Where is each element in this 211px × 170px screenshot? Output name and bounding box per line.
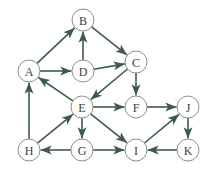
node-k: K [177, 139, 199, 161]
node-label: H [25, 144, 34, 158]
arrow-line [91, 114, 127, 143]
arrow-line [37, 28, 75, 64]
node-e: E [71, 96, 93, 118]
node-label: D [79, 65, 88, 79]
directed-graph: ABCDEFGHIJK [0, 0, 211, 170]
node-label: A [25, 65, 34, 79]
node-c: C [125, 51, 147, 73]
arrow-line [92, 27, 127, 55]
arrow-line [38, 114, 74, 143]
node-label: B [79, 14, 87, 28]
node-label: I [134, 144, 138, 158]
node-label: G [78, 144, 87, 158]
edge-layer [29, 27, 188, 150]
node-a: A [18, 60, 40, 82]
edge-c-to-e [91, 69, 128, 100]
arrow-line [145, 114, 180, 143]
node-g: G [71, 139, 93, 161]
edge-e-to-a [39, 78, 73, 101]
node-label: C [132, 56, 140, 70]
node-b: B [72, 9, 94, 31]
arrow-line [91, 69, 128, 100]
node-j: J [177, 96, 199, 118]
node-i: I [125, 139, 147, 161]
edge-e-to-i [91, 114, 127, 143]
edge-a-to-b [37, 28, 75, 64]
edge-d-to-c [94, 64, 125, 69]
node-label: J [186, 101, 191, 115]
node-label: E [78, 101, 85, 115]
node-label: F [133, 101, 140, 115]
arrow-line [94, 64, 125, 69]
edge-b-to-c [92, 27, 127, 55]
arrow-line [39, 78, 73, 101]
edge-h-to-e [38, 114, 74, 143]
edge-i-to-j [145, 114, 180, 143]
node-label: K [184, 144, 193, 158]
node-d: D [72, 60, 94, 82]
node-h: H [18, 139, 40, 161]
node-f: F [125, 96, 147, 118]
